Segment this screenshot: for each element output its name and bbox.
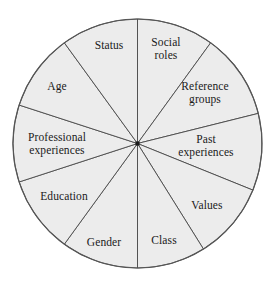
wheel-center-dot <box>136 142 140 146</box>
wheel-svg <box>0 0 276 287</box>
wheel-diagram: Social rolesReference groupsPast experie… <box>0 0 276 287</box>
